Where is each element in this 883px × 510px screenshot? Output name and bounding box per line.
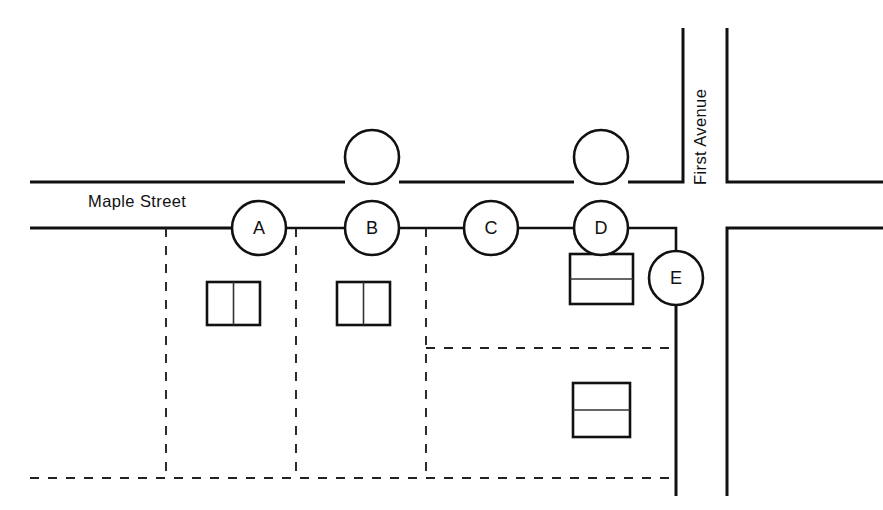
node-e[interactable]: E (649, 251, 703, 305)
node-top-right-circle[interactable] (574, 130, 628, 184)
node-c-label: C (485, 218, 498, 238)
connector-d-e (628, 228, 676, 251)
road-layer (30, 28, 883, 496)
node-top-left[interactable] (345, 130, 399, 184)
node-b-label: B (366, 218, 378, 238)
node-a-label: A (253, 218, 265, 238)
building-a (207, 282, 260, 325)
building-b (337, 282, 390, 325)
node-d[interactable]: D (574, 201, 628, 255)
node-top-right[interactable] (574, 130, 628, 184)
street-map-diagram: ABCDE Maple StreetFirst Avenue (0, 0, 883, 510)
map-canvas: ABCDE Maple StreetFirst Avenue (0, 0, 883, 510)
node-c[interactable]: C (464, 201, 518, 255)
node-e-label: E (670, 268, 682, 288)
first-ave-lower-right-corner (727, 228, 883, 496)
node-top-left-circle[interactable] (345, 130, 399, 184)
building-layer (207, 254, 633, 437)
node-b[interactable]: B (345, 201, 399, 255)
node-d-label: D (595, 218, 608, 238)
node-a[interactable]: A (232, 201, 286, 255)
first-ave-upper-right-corner (727, 28, 883, 182)
first-avenue-label: First Avenue (691, 89, 709, 185)
building-d (570, 254, 633, 304)
maple-upper-right (628, 28, 683, 182)
building-lower-right (573, 383, 630, 437)
maple-street-label: Maple Street (88, 192, 186, 210)
